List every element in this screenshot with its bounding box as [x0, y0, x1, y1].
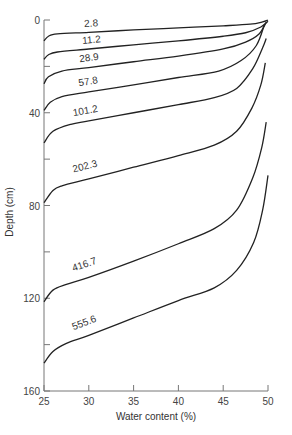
- curve-11-2: [44, 21, 268, 59]
- curve-101-2: [44, 39, 266, 143]
- curve-57-8: [44, 25, 264, 111]
- x-axis-title: Water content (%): [116, 411, 196, 422]
- x-tick-label: 40: [173, 396, 185, 407]
- y-axis-title: Depth (cm): [4, 187, 15, 236]
- curves: [44, 20, 268, 363]
- curve-label: 2.8: [84, 17, 99, 29]
- y-tick-label: 80: [29, 201, 41, 212]
- curve-2-8: [44, 20, 268, 41]
- x-tick-label: 50: [262, 396, 274, 407]
- x-tick-label: 35: [128, 396, 140, 407]
- curve-label: 555.6: [70, 313, 98, 332]
- y-tick-label: 160: [23, 386, 40, 397]
- curve-label: 101.2: [72, 103, 99, 118]
- y-tick-label: 0: [34, 15, 40, 26]
- y-tick-label: 40: [29, 108, 41, 119]
- curve-label: 416.7: [71, 255, 99, 274]
- curve-label: 57.8: [78, 74, 99, 88]
- curve-202-3: [44, 63, 265, 203]
- x-tick-label: 30: [83, 396, 95, 407]
- curve-label: 202.3: [71, 157, 98, 174]
- curve-label: 11.2: [82, 33, 102, 46]
- chart: 25303540455004080120160 2.811.228.957.81…: [0, 0, 292, 435]
- x-tick-label: 25: [38, 396, 50, 407]
- curve-label: 28.9: [79, 51, 100, 64]
- x-tick-label: 45: [218, 396, 230, 407]
- y-tick-label: 120: [23, 293, 40, 304]
- curve-28-9: [44, 22, 266, 83]
- curve-labels: 2.811.228.957.8101.2202.3416.7555.6: [70, 17, 101, 332]
